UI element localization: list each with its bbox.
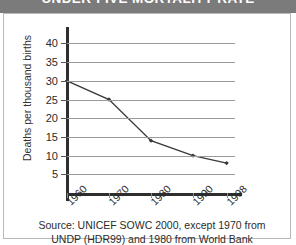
y-axis-tick-label: 15 xyxy=(46,131,58,143)
y-axis-tick-mark xyxy=(61,62,67,63)
source-line-1: Source: UNICEF SOWC 2000, except 1970 fr… xyxy=(24,219,280,233)
y-axis-tick-mark xyxy=(61,137,67,138)
source-line-2: UNDP (HDR99) and 1980 from World Bank xyxy=(24,233,280,245)
gridline xyxy=(67,174,235,175)
y-axis-tick-mark xyxy=(61,81,67,82)
plot-area: 51015202530354019601970198019901998 xyxy=(67,36,235,193)
page-title: UNDER-FIVE MORTALITY RATE xyxy=(0,0,296,6)
y-axis-tick-label: 40 xyxy=(46,37,58,49)
gridline xyxy=(67,137,235,138)
y-axis-tick-label: 20 xyxy=(46,112,58,124)
y-axis-tick-label: 5 xyxy=(52,168,58,180)
gridline xyxy=(67,81,235,82)
data-series-line xyxy=(67,36,235,193)
chart-card: Deaths per thousand births 5101520253035… xyxy=(3,13,291,239)
series-line xyxy=(67,81,227,163)
chart-figure: UNDER-FIVE MORTALITY RATE Deaths per tho… xyxy=(0,0,296,245)
y-axis-tick-mark xyxy=(61,100,67,101)
gridline xyxy=(67,156,235,157)
y-axis-tick-label: 35 xyxy=(46,56,58,68)
y-axis-tick-label: 10 xyxy=(46,150,58,162)
chart-title-band: UNDER-FIVE MORTALITY RATE xyxy=(0,0,296,13)
y-axis-tick-mark xyxy=(61,156,67,157)
y-axis-tick-label: 25 xyxy=(46,94,58,106)
gridline xyxy=(67,118,235,119)
gridline xyxy=(67,43,235,44)
y-axis-tick-mark xyxy=(61,43,67,44)
gridline xyxy=(67,62,235,63)
y-axis-tick-label: 30 xyxy=(46,75,58,87)
y-axis-title: Deaths per thousand births xyxy=(21,28,33,168)
data-point-marker xyxy=(224,161,228,165)
y-axis-tick-mark xyxy=(61,174,67,175)
source-note: Source: UNICEF SOWC 2000, except 1970 fr… xyxy=(24,219,280,245)
gridline xyxy=(67,100,235,101)
y-axis-tick-mark xyxy=(61,118,67,119)
